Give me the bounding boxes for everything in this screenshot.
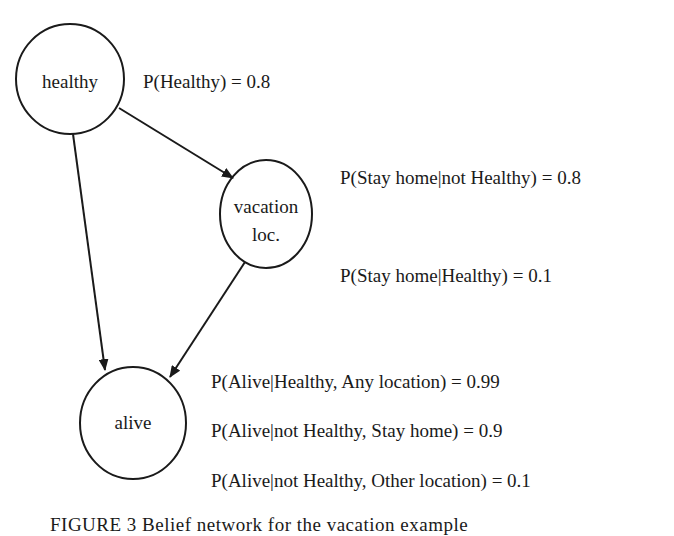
figure-caption: FIGURE 3 Belief network for the vacation…: [50, 514, 468, 536]
node-healthy-label: healthy: [16, 72, 124, 91]
prob-alive-healthy: P(Alive|Healthy, Any location) = 0.99: [211, 372, 500, 391]
node-vacation-label-line1: vacation: [220, 197, 312, 216]
node-vacation-label-line2: loc.: [220, 225, 312, 244]
edge-vacation-alive: [170, 262, 245, 377]
prob-vacation-healthy: P(Stay home|Healthy) = 0.1: [340, 266, 552, 285]
edge-healthy-alive: [73, 134, 105, 370]
node-alive-label: alive: [80, 413, 186, 432]
prob-alive-not-healthy-home: P(Alive|not Healthy, Stay home) = 0.9: [211, 421, 502, 440]
edge-healthy-vacation: [119, 108, 233, 178]
prob-vacation-not-healthy: P(Stay home|not Healthy) = 0.8: [340, 168, 581, 187]
prob-alive-not-healthy-other: P(Alive|not Healthy, Other location) = 0…: [211, 471, 531, 490]
prob-healthy: P(Healthy) = 0.8: [143, 72, 270, 91]
